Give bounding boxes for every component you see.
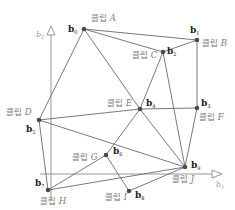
vector-label: b4 [146,98,155,109]
node-dot[interactable] [195,106,200,111]
graph-diagram: b2 b1 b0 클립 A b1 클 [0,0,235,210]
vector-label: b6 [113,146,122,157]
clip-label: 클립 C [132,50,158,60]
node-b1[interactable]: b1 클립 B [190,25,227,48]
edge-b4-b5 [39,109,140,120]
node-b9[interactable]: b9 클립 J [172,160,200,184]
node-dot[interactable] [161,50,166,55]
edge-b7-b9 [48,167,185,190]
edge-b4-b6 [106,109,140,155]
clip-label: 클립 I [105,192,128,202]
vector-label: b3 [201,98,210,109]
edge-b0-b5 [39,29,84,120]
vector-label: b0 [68,24,77,35]
node-dot[interactable] [127,189,132,194]
edge-b3-b4 [140,108,197,109]
edge-b4-b9 [140,109,185,167]
edge-b0-b4 [84,29,140,109]
edge-b5-b9 [39,120,185,167]
nodes: b0 클립 A b1 클립 B b2 클립 C b3 클립 F b4 클립 E [6,13,227,206]
node-dot[interactable] [82,27,87,32]
node-dot[interactable] [104,153,109,158]
vertical-axis-label: b2 [36,30,44,40]
node-b8[interactable]: b8 클립 I [105,189,144,202]
vector-label: b8 [135,190,144,201]
node-dot[interactable] [37,118,42,123]
node-dot[interactable] [183,165,188,170]
clip-label: 클립 F [199,112,225,122]
vector-label: b1 [190,25,199,36]
horizontal-axis-arrow-icon [212,170,222,178]
horizontal-axis-label: b1 [216,180,224,190]
node-dot[interactable] [138,107,143,112]
clip-label: 클립 E [107,98,133,108]
edge-b3-b9 [185,108,197,167]
clip-label: 클립 D [6,107,32,117]
clip-label: 클립 J [172,174,195,184]
vector-label: b5 [26,124,35,135]
edge-b6-b8 [106,155,129,191]
node-dot[interactable] [46,188,51,193]
vertical-axis-arrow-icon [47,26,55,35]
node-dot[interactable] [195,38,200,43]
clip-label: 클립 H [40,196,67,206]
clip-label: 클립 B [202,38,227,48]
node-b6[interactable]: b6 클립 G [72,146,122,162]
clip-label: 클립 A [91,13,116,23]
clip-label: 클립 G [72,152,98,162]
node-b2[interactable]: b2 클립 C [132,46,176,60]
node-b5[interactable]: b5 클립 D [6,107,41,135]
vector-label: b9 [191,160,200,171]
node-b3[interactable]: b3 클립 F [195,98,225,122]
edge-b2-b9 [163,52,185,167]
vector-label: b7 [35,178,44,189]
edge-b0-b1 [84,29,197,40]
